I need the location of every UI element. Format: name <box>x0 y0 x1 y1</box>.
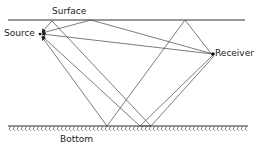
ray-bottom-1 <box>42 36 213 126</box>
bottom-label: Bottom <box>60 135 93 144</box>
source-point <box>39 33 42 36</box>
bottom-hatch <box>8 126 248 131</box>
surface-label: Surface <box>52 7 86 16</box>
ray-surface-bottom <box>42 21 151 126</box>
ray-bottom-2 <box>42 20 213 126</box>
ray-direct <box>42 34 213 54</box>
receiver-label: Receiver <box>215 49 254 58</box>
source-label: Source <box>4 29 35 38</box>
propagation-diagram <box>0 0 255 150</box>
